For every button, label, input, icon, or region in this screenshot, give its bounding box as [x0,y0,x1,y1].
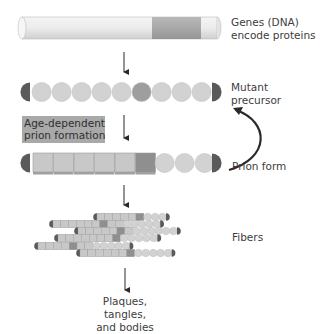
fiber-cube [94,227,102,235]
fiber-bead [138,220,146,228]
outcome-label-line: Plaques, tangles, [82,295,168,321]
fiber-cube [113,213,121,221]
fiber-bead [145,220,153,228]
fiber-cube [119,249,127,257]
fiber-mutant-cube [136,213,144,221]
fiber-cube [86,227,94,235]
fiber-cube [46,242,54,250]
chain-end-cap [20,153,30,172]
fiber-cube [89,234,97,242]
bead [175,153,194,172]
bead [52,82,71,101]
bead [195,153,214,172]
fiber-bead [142,249,150,257]
prion-cube [95,153,115,172]
fibers-label: Fibers [232,231,263,244]
prion-cube [74,153,94,172]
fiber-cube [74,234,82,242]
fiber-cube [120,213,128,221]
fiber-cube [61,220,69,228]
mutant-cube [136,153,156,172]
fiber [76,249,175,257]
dna-label-line: Genes (DNA) [231,16,316,29]
fiber-cube [53,220,61,228]
fiber-bead [164,249,172,257]
fiber-cube [38,242,46,250]
fiber-end-cap [76,249,80,257]
fiber-end-cap [172,249,176,257]
fiber-bead [149,249,157,257]
fiber-bead [107,242,115,250]
fiber-bead [153,220,161,228]
bead [72,82,91,101]
prion-form-chain [20,153,221,175]
outcome-label: Plaques, tangles, and bodies [82,295,168,334]
prion-cube [115,153,135,172]
cube-shadow [136,172,156,175]
fiber-bead [151,213,159,221]
prion-cube [54,153,74,172]
fiber-cube [109,227,117,235]
fiber-cube [96,249,104,257]
cube-shadow [74,172,94,175]
fiber [74,227,181,235]
fiber-cube [88,249,96,257]
fiber-cube [66,234,74,242]
fiber-cube [125,227,133,235]
outcome-label-line: and bodies [82,321,168,334]
feedback-arrow-head [233,107,243,115]
prion-form-label-line: Prion form [232,160,286,173]
fiber-bead [120,234,128,242]
fiber-cube [61,242,69,250]
fiber-cube [77,242,85,250]
fiber-end-cap [157,234,161,242]
bead [32,82,51,101]
fiber-bead [144,213,152,221]
bead [152,82,171,101]
fiber [49,220,164,228]
fiber-bead [162,227,170,235]
cube-shadow [33,172,53,175]
prion-form-label: Prion form [232,160,286,173]
fiber-bead [93,242,101,250]
process-label-box: Age-dependent prion formation [22,116,105,143]
bead [192,82,211,101]
fiber-bead [140,227,148,235]
fiber-cube [84,220,92,228]
prion-cube [33,153,53,172]
fibers-label-line: Fibers [232,231,263,244]
fiber-cube [115,220,123,228]
fiber-cube [81,234,89,242]
mutant-precursor-label: Mutant precursor [231,81,281,107]
fiber-end-cap [177,227,181,235]
fiber-bead [159,213,167,221]
fiber-cube [69,220,77,228]
fiber-bead [135,249,143,257]
fiber-end-cap [74,227,78,235]
fiber [34,242,133,250]
mutant-precursor-label-line: precursor [231,94,281,107]
fiber-mutant-cube [100,220,108,228]
bead [172,82,191,101]
fiber-bead [123,220,131,228]
fiber-end-cap [166,213,170,221]
fiber-end-cap [93,213,97,221]
fiber-cube [128,213,136,221]
chain-end-cap [212,82,222,101]
fiber-bundle [34,213,181,257]
fiber-end-cap [130,242,134,250]
fiber-cube [97,213,105,221]
fiber-bead [157,249,165,257]
fiber-mutant-cube [113,234,121,242]
fiber-end-cap [160,220,164,228]
fiber-cube [92,220,100,228]
fiber [54,234,161,242]
fiber-cube [58,234,66,242]
bead [92,82,111,101]
fiber-bead [170,227,178,235]
fiber-bead [150,234,158,242]
bead [112,82,131,101]
bead [155,153,174,172]
fiber-bead [122,242,130,250]
fiber-cube [105,213,113,221]
